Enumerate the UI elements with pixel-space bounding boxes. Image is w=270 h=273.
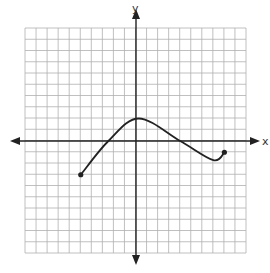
left-endpoint-dot (78, 172, 83, 177)
x-axis-left-arrow-icon (10, 137, 20, 145)
y-axis-down-arrow-icon (132, 255, 140, 265)
coordinate-plane: x y (0, 0, 270, 273)
x-axis-label: x (262, 135, 269, 148)
right-endpoint-dot (222, 150, 227, 155)
y-axis-label: y (132, 2, 139, 15)
function-curve (78, 119, 227, 178)
axes: x y (10, 2, 269, 265)
x-axis-right-arrow-icon (250, 137, 260, 145)
